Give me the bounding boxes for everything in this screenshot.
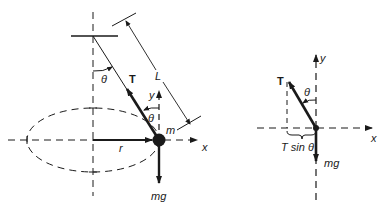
- fbd-angle-label: θ: [304, 86, 310, 98]
- fbd-x-label: x: [370, 132, 377, 144]
- angle-label-mass: θ: [148, 112, 154, 124]
- angle-label-top: θ: [101, 73, 107, 85]
- horizontal-component-label: T sin θ: [281, 141, 314, 153]
- weight-label: mg: [151, 190, 167, 202]
- fbd-tension-label: T: [277, 75, 284, 87]
- angle-arc-top: [93, 67, 112, 71]
- length-tick-top: [112, 13, 136, 26]
- mass-label: m: [166, 124, 175, 136]
- fbd-y-label: y: [319, 52, 327, 64]
- fbd-tension-arrow: [289, 82, 316, 128]
- fbd-weight-label: mg: [324, 157, 340, 169]
- length-dimension-line: [163, 82, 190, 124]
- length-dimension-line: [126, 21, 156, 70]
- y-axis-label: y: [148, 89, 156, 101]
- angle-arc-mass: [144, 108, 159, 110]
- x-axis-label: x: [201, 141, 208, 153]
- length-label: L: [155, 70, 161, 82]
- radius-label: r: [119, 142, 124, 154]
- horizontal-component-brace: [287, 131, 316, 139]
- conical-pendulum-diagram: T θ r y θ m mg L x y x: [0, 0, 385, 206]
- left-panel: T θ r y θ m mg L x: [8, 12, 208, 202]
- right-panel: y x T θ T sin θ mg: [257, 52, 377, 200]
- fbd-angle-arc: [303, 100, 316, 103]
- tension-label: T: [129, 73, 136, 85]
